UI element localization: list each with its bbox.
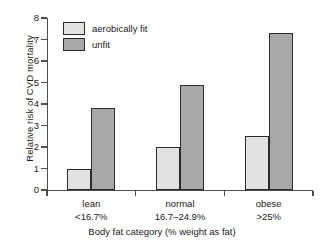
y-axis-tick [41,103,47,104]
y-axis-tick-label: 5 [24,78,39,88]
chart-legend: aerobically fitunfit [63,21,147,53]
y-axis-tick-label: 7 [24,35,39,45]
y-axis-tick [41,146,47,147]
y-axis-tick [41,125,47,126]
legend-swatch-icon [63,38,85,51]
x-axis-line [47,190,313,191]
x-axis-tick [224,191,225,196]
bar-normal-unfit [180,85,204,190]
legend-item-aerobically-fit: aerobically fit [63,21,147,36]
bar-lean-unfit [91,108,115,190]
y-axis-tick [41,168,47,169]
x-axis-label-range: >25% [214,210,324,223]
y-axis-line [47,18,48,191]
x-axis-tick [46,191,47,196]
y-axis-tick-label: 3 [24,121,39,131]
legend-swatch-icon [63,22,85,35]
bar-normal-aerobically-fit [156,147,180,190]
x-axis-tick [312,191,313,196]
x-axis-label-primary: obese [214,197,324,210]
y-axis-tick-label: 6 [24,56,39,66]
y-axis-tick [41,17,47,18]
legend-item-unfit: unfit [63,37,147,52]
legend-label: unfit [92,40,110,50]
y-axis-tick [41,82,47,83]
y-axis-tick-label: 8 [24,13,39,23]
legend-label: aerobically fit [92,24,147,34]
bar-chart-figure: Relative risk of CVD mortality 876543210… [0,0,324,242]
x-axis-title: Body fat category (% weight as fat) [0,226,324,237]
y-axis-tick [41,60,47,61]
y-axis-tick-label: 4 [24,99,39,109]
bar-obese-unfit [269,33,293,190]
x-axis-tick [135,191,136,196]
y-axis-tick-label: 0 [24,185,39,195]
bar-lean-aerobically-fit [67,169,91,191]
y-axis-tick-label: 1 [24,164,39,174]
y-axis-tick-label: 2 [24,142,39,152]
x-axis-label-obese: obese>25% [214,197,324,223]
bar-obese-aerobically-fit [245,136,269,190]
y-axis-tick [41,39,47,40]
